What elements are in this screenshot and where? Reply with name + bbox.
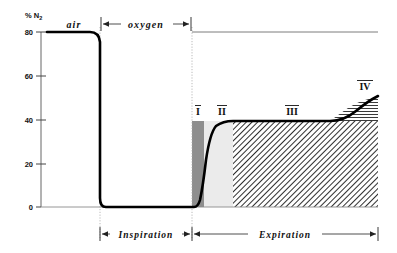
phase-3-fill xyxy=(233,121,378,207)
y-tick-label-80: 80 xyxy=(25,28,33,37)
y-axis-title-subscript: 2 xyxy=(39,15,42,21)
oxygen-bracket-arrow-left xyxy=(103,21,109,27)
y-tick-labels: 80 60 40 20 0 xyxy=(25,28,33,212)
cycle-label-expiration: Expiration xyxy=(258,230,311,240)
phase-label-3: III xyxy=(286,106,298,117)
gas-phase-brackets: air oxygen oxygen xyxy=(67,17,191,31)
y-tick-label-0: 0 xyxy=(29,203,33,212)
expiration-arrow-left xyxy=(194,231,200,237)
phase-label-2: II xyxy=(218,106,226,117)
phase-label-1: I xyxy=(196,106,200,117)
oxygen-bracket-arrow-right xyxy=(183,21,189,27)
nitrogen-washout-figure: 80 60 40 20 0 % N2 air oxygen oxygen xyxy=(0,0,397,253)
svg-text:% N2: % N2 xyxy=(25,11,42,21)
plot-canvas: 80 60 40 20 0 % N2 air oxygen oxygen xyxy=(0,0,397,253)
phase-label-4: IV xyxy=(359,81,371,92)
breathing-cycle-brackets: Inspiration Expiration xyxy=(100,227,378,241)
cycle-label-inspiration: Inspiration xyxy=(118,230,174,240)
y-axis-title-text: % N xyxy=(25,11,39,20)
gas-label-air: air xyxy=(67,19,82,30)
y-tick-label-40: 40 xyxy=(25,116,33,125)
inspiration-arrow-left xyxy=(102,231,108,237)
phase-2-fill xyxy=(204,121,233,207)
y-tick-label-60: 60 xyxy=(25,72,33,81)
expiration-arrow-right xyxy=(370,231,376,237)
gas-label-oxygen-overlay: oxygen xyxy=(128,19,164,30)
inspiration-arrow-right xyxy=(184,231,190,237)
y-tick-label-20: 20 xyxy=(25,160,33,169)
y-axis-title: % N2 xyxy=(25,11,42,21)
